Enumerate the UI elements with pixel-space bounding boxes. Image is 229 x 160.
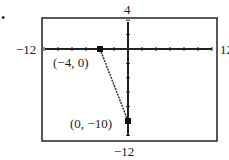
point-b-label: (0, −10) — [70, 117, 112, 130]
plot — [0, 0, 229, 160]
point-b — [125, 118, 131, 124]
line-segment — [100, 49, 128, 121]
point-a-label: (−4, 0) — [53, 56, 89, 69]
point-a — [97, 46, 103, 52]
